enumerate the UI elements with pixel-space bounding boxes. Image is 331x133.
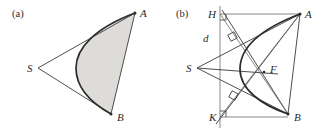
geometry-figure: (a) S A B bbox=[0, 0, 331, 133]
right-angle-marker-upper bbox=[228, 32, 237, 41]
point-label-b-k: K bbox=[209, 112, 216, 123]
panel-b-vertex-dot-b bbox=[287, 113, 290, 116]
point-label-b-b: B bbox=[294, 112, 301, 123]
panel-b-drawing bbox=[0, 0, 331, 133]
panel-b-label: (b) bbox=[176, 9, 188, 20]
segment-h-b bbox=[220, 14, 288, 114]
point-label-b-a: A bbox=[305, 9, 312, 20]
focus-dot-f bbox=[263, 71, 266, 74]
panel-b-vertex-dot-a bbox=[299, 13, 302, 16]
point-label-b-h: H bbox=[208, 9, 216, 20]
point-label-b-s: S bbox=[186, 63, 192, 74]
segment-k-a bbox=[220, 14, 300, 117]
panel-b-group bbox=[197, 6, 302, 128]
segment-b-s-a bbox=[197, 14, 300, 68]
segment-s-f bbox=[197, 68, 278, 74]
segment-b-a-b bbox=[288, 14, 300, 114]
directrix-label-d: d bbox=[203, 33, 209, 44]
point-label-b-f: F bbox=[270, 64, 277, 75]
